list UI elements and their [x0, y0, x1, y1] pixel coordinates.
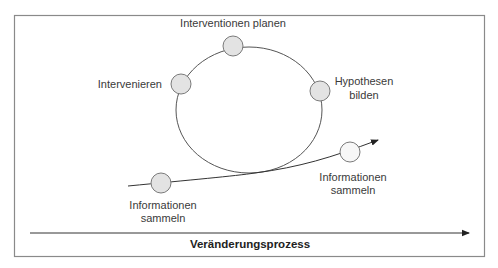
node-hypothesen-bilden — [310, 81, 330, 101]
diagram-canvas: Interventionen planen Intervenieren Hypo… — [0, 0, 498, 268]
node-intervenieren — [171, 74, 191, 94]
node-informationen-sammeln-start — [151, 173, 171, 193]
label-informationen-sammeln-end-line1: Informationen — [319, 171, 386, 183]
node-interventionen-planen — [223, 36, 243, 56]
label-hypothesen-bilden-line2: bilden — [349, 89, 378, 101]
label-informationen-sammeln-start-line2: sammeln — [141, 212, 186, 224]
diagram-frame — [15, 16, 485, 257]
label-informationen-sammeln-start-line1: Informationen — [129, 199, 196, 211]
label-interventionen-planen: Interventionen planen — [180, 17, 286, 29]
label-hypothesen-bilden-line1: Hypothesen — [335, 75, 394, 87]
cycle-loop — [176, 47, 322, 173]
node-informationen-sammeln-end — [340, 142, 360, 162]
label-intervenieren: Intervenieren — [98, 78, 162, 90]
diagram-svg: Interventionen planen Intervenieren Hypo… — [0, 0, 498, 268]
axis-label-veraenderungsprozess: Veränderungsprozess — [190, 238, 310, 250]
label-informationen-sammeln-end-line2: sammeln — [331, 184, 376, 196]
